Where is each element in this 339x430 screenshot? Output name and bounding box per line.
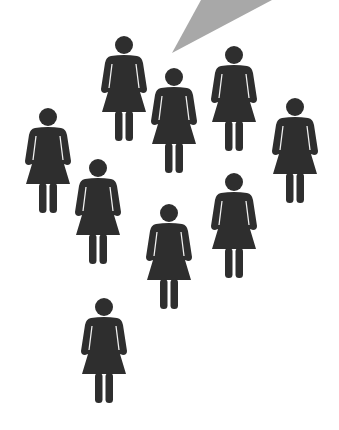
woman-pictogram-icon [211,46,257,151]
woman-pictogram-icon [81,298,127,403]
woman-pictogram-icon [75,159,121,264]
woman-pictogram-icon [211,173,257,278]
woman-pictogram-icon [25,108,71,213]
woman-pictogram-icon [151,68,197,173]
diagram-canvas [0,0,339,430]
woman-pictogram-icon [146,204,192,309]
woman-pictogram-icon [272,98,318,203]
woman-pictogram-icon [101,36,147,141]
